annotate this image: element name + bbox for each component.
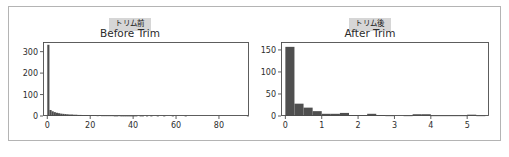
y-tick-label: 200 bbox=[23, 69, 38, 78]
histogram-bar bbox=[304, 108, 313, 116]
x-tick-label: 4 bbox=[428, 121, 433, 130]
x-tick-label: 5 bbox=[465, 121, 470, 130]
x-tick-label: 60 bbox=[171, 121, 181, 130]
y-tick-label: 300 bbox=[23, 48, 38, 57]
chart-panel-before-trim: トリム前 Before Trim 0204060800100200300 bbox=[10, 6, 250, 136]
chart-panel-after-trim: トリム後 After Trim 012345050100150 bbox=[250, 6, 490, 136]
plot-frame bbox=[282, 43, 489, 116]
panel-title-before-trim: Before Trim bbox=[10, 28, 250, 39]
histogram-bar bbox=[47, 45, 49, 116]
histogram-after-trim: 012345050100150 bbox=[250, 40, 490, 132]
figure-root: トリム前 Before Trim 0204060800100200300 トリム… bbox=[0, 0, 509, 157]
histogram-bar bbox=[285, 47, 294, 116]
plot-area-before-trim: 0204060800100200300 bbox=[10, 40, 250, 132]
panel-title-after-trim: After Trim bbox=[250, 28, 490, 39]
histogram-bars bbox=[47, 45, 249, 117]
histogram-before-trim: 0204060800100200300 bbox=[10, 40, 250, 132]
y-tick-label: 100 bbox=[261, 68, 276, 77]
y-tick-label: 0 bbox=[271, 112, 276, 121]
x-tick-label: 0 bbox=[283, 121, 288, 130]
x-tick-label: 2 bbox=[356, 121, 361, 130]
y-tick-label: 100 bbox=[23, 91, 38, 100]
x-tick-label: 40 bbox=[128, 121, 138, 130]
x-tick-label: 0 bbox=[45, 121, 50, 130]
plot-frame bbox=[44, 43, 249, 116]
histogram-bars bbox=[285, 47, 485, 116]
x-tick-label: 1 bbox=[319, 121, 324, 130]
x-tick-label: 80 bbox=[214, 121, 224, 130]
x-tick-label: 20 bbox=[85, 121, 95, 130]
x-tick-label: 3 bbox=[392, 121, 397, 130]
plot-area-after-trim: 012345050100150 bbox=[250, 40, 490, 132]
y-tick-label: 150 bbox=[261, 46, 276, 55]
y-tick-label: 0 bbox=[33, 112, 38, 121]
histogram-bar bbox=[294, 104, 303, 116]
y-tick-label: 50 bbox=[266, 90, 276, 99]
